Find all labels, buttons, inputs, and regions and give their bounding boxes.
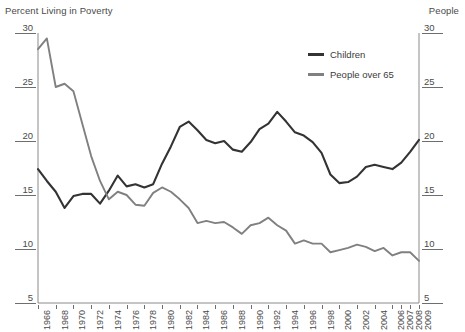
series-line-people-over-65: [38, 38, 419, 260]
poverty-line-chart: Percent Living in Poverty People Childre…: [0, 0, 465, 332]
series-line-children: [38, 112, 419, 208]
plot-area: [0, 0, 465, 332]
